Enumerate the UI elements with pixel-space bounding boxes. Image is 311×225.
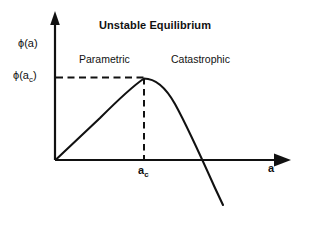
- unstable-equilibrium-figure: Unstable Equilibrium ϕ(a) ϕ(ac) Parametr…: [0, 0, 311, 225]
- region-label-catastrophic: Catastrophic: [171, 54, 230, 65]
- x-axis-arrowhead: [274, 154, 291, 167]
- figure-title: Unstable Equilibrium: [99, 20, 211, 31]
- x-axis-tick-label-critical: ac: [138, 165, 149, 179]
- y-axis-tick-label-critical: ϕ(ac): [13, 70, 37, 84]
- x-tick-subscript: c: [144, 170, 148, 179]
- x-axis-label: a: [268, 163, 274, 174]
- phi-of-a-curve: [56, 79, 223, 206]
- y-tick-close-paren: ): [33, 69, 37, 81]
- y-axis-arrowhead: [50, 11, 60, 25]
- y-tick-base: ϕ(a: [13, 69, 29, 81]
- y-axis-label: ϕ(a): [18, 38, 38, 49]
- plot-canvas: [0, 0, 311, 225]
- region-label-parametric: Parametric: [79, 54, 130, 65]
